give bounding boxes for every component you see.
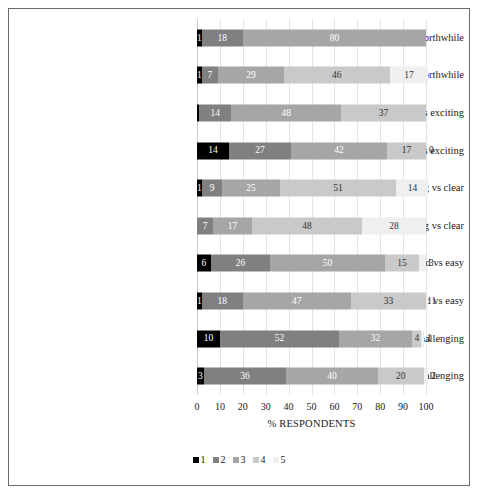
bar-value-label: 26 (236, 259, 246, 269)
chart-row: Online - boring vs exciting142742170 (9, 132, 469, 170)
bar-segment-5: 3 (419, 255, 426, 272)
bar-value-label: 47 (292, 296, 302, 306)
bar-value-label: 14 (211, 108, 221, 118)
chart-row: In-lab - useless vs. worthwhile11880 (9, 19, 469, 57)
bar-segment-5: 1 (426, 292, 428, 309)
legend-item-3[interactable]: 3 (233, 454, 246, 465)
bar-value-label: 0 (429, 146, 434, 156)
bar-value-label: 25 (246, 183, 256, 193)
bar-segment-2: 52 (220, 330, 339, 347)
bar-value-label: 14 (208, 146, 218, 156)
bar-value-label: 51 (333, 183, 343, 193)
bar-segment-2: 26 (211, 255, 271, 272)
bar-value-label: 29 (246, 71, 256, 81)
bar-value-label: 46 (332, 71, 342, 81)
legend-swatch-icon (273, 457, 279, 463)
bar-value-label: 7 (203, 221, 208, 231)
chart-row: In-lab - challenging vs unchallenging105… (9, 320, 469, 358)
x-tick-70: 70 (352, 401, 362, 412)
bar-segment-3: 42 (291, 142, 387, 159)
legend-item-4[interactable]: 4 (253, 454, 266, 465)
bar-segment-5: 28 (362, 217, 426, 234)
legend-label: 4 (261, 454, 266, 465)
bar-value-label: 3 (198, 371, 203, 381)
bar-value-label: 80 (330, 33, 340, 43)
chart-frame: In-lab - useless vs. worthwhile11880Onli… (8, 8, 470, 486)
bar-segment-5: 14 (396, 180, 428, 197)
bar-segment-3: 40 (286, 368, 378, 385)
bar-segment-2: 36 (204, 368, 286, 385)
bar-segment-1: 6 (197, 255, 211, 272)
bar-segment-1: 10 (197, 330, 220, 347)
bar-segment-2: 14 (199, 104, 231, 121)
chart-row: Online - useless vs. worthwhile17294617 (9, 57, 469, 95)
bar-value-label: 32 (371, 334, 381, 344)
stacked-bar: 33640202 (197, 368, 426, 385)
bar-segment-3: 25 (222, 180, 279, 197)
bar-value-label: 36 (240, 371, 250, 381)
bar-segment-2: 18 (202, 292, 243, 309)
bar-value-label: 48 (282, 108, 292, 118)
bar-segment-4: 33 (351, 292, 427, 309)
x-tick-10: 10 (215, 401, 225, 412)
bar-segment-3: 48 (231, 104, 341, 121)
x-tick-100: 100 (419, 401, 434, 412)
stacked-bar: 7174828 (197, 217, 426, 234)
bar-value-label: 50 (323, 259, 333, 269)
chart-row: In-lab - boring vs exciting144837 (9, 94, 469, 132)
stacked-bar: 62650153 (197, 255, 426, 272)
bar-value-label: 42 (334, 146, 344, 156)
bar-value-label: 1 (197, 296, 202, 306)
bar-value-label: 1 (431, 296, 436, 306)
bar-value-label: 37 (379, 108, 389, 118)
bar-value-label: 1 (197, 183, 202, 193)
bar-segment-4: 4 (412, 330, 421, 347)
stacked-bar: 142742170 (197, 142, 426, 159)
bar-value-label: 28 (389, 221, 399, 231)
legend-item-5[interactable]: 5 (273, 454, 286, 465)
x-tick-30: 30 (261, 401, 271, 412)
bar-value-label: 1 (197, 33, 202, 43)
bar-value-label: 2 (431, 371, 436, 381)
bar-value-label: 17 (404, 71, 414, 81)
stacked-bar: 10523241 (197, 330, 426, 347)
bar-value-label: 1 (197, 71, 202, 81)
bar-segment-5: 1 (421, 330, 423, 347)
legend-label: 1 (201, 454, 206, 465)
legend-item-2[interactable]: 2 (213, 454, 226, 465)
bar-segment-3: 50 (270, 255, 385, 272)
legend-swatch-icon (193, 457, 199, 463)
bar-rows: In-lab - useless vs. worthwhile11880Onli… (9, 19, 469, 395)
x-tick-90: 90 (398, 401, 408, 412)
bar-segment-4: 17 (387, 142, 426, 159)
bar-segment-2: 7 (202, 67, 218, 84)
stacked-bar: 11880 (197, 29, 426, 46)
bar-value-label: 7 (207, 71, 212, 81)
stacked-bar: 11847331 (197, 292, 426, 309)
bar-value-label: 17 (228, 221, 238, 231)
chart-row: In-lab - hard vs easy62650153 (9, 245, 469, 283)
bar-segment-4: 37 (341, 104, 426, 121)
bar-segment-3: 29 (218, 67, 284, 84)
bar-value-label: 18 (218, 33, 228, 43)
bar-value-label: 3 (429, 259, 434, 269)
chart-row: Online - challenging vs unchallenging336… (9, 357, 469, 395)
bar-segment-4: 46 (284, 67, 389, 84)
bar-value-label: 9 (210, 183, 215, 193)
bar-value-label: 40 (327, 371, 337, 381)
x-tick-80: 80 (375, 401, 385, 412)
bar-segment-3: 80 (243, 29, 426, 46)
legend-swatch-icon (253, 457, 259, 463)
x-tick-60: 60 (329, 401, 339, 412)
legend-label: 5 (281, 454, 286, 465)
legend-item-1[interactable]: 1 (193, 454, 206, 465)
bar-segment-2: 9 (202, 180, 223, 197)
chart-row: Online - confusing vs clear7174828 (9, 207, 469, 245)
legend-swatch-icon (213, 457, 219, 463)
x-tick-0: 0 (195, 401, 200, 412)
bar-segment-1: 3 (197, 368, 204, 385)
bar-value-label: 17 (402, 146, 412, 156)
bar-value-label: 14 (408, 183, 418, 193)
bar-value-label: 6 (201, 259, 206, 269)
bar-segment-4: 20 (378, 368, 424, 385)
